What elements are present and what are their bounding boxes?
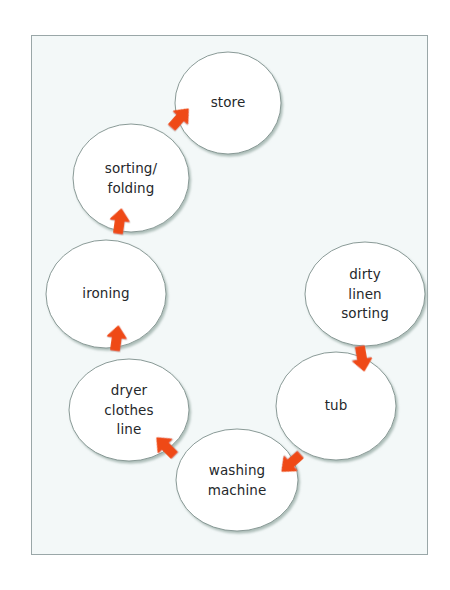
node-sorting-folding[interactable] [73,124,189,232]
node-tub[interactable] [276,352,396,460]
node-washing-machine[interactable] [176,429,298,531]
node-dirty-linen-sorting[interactable] [305,242,425,346]
node-ironing[interactable] [46,240,166,348]
diagram-canvas: storesorting/ foldingironingdryer clothe… [0,0,450,590]
node-store[interactable] [175,52,281,154]
